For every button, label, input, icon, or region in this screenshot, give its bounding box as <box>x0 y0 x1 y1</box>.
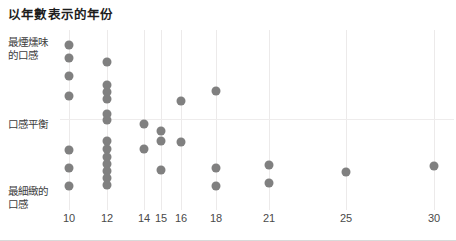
data-point <box>103 181 112 190</box>
y-axis-label-top: 最煙燻味的口感 <box>8 36 48 62</box>
data-point <box>65 146 74 155</box>
x-axis-label-10: 10 <box>63 212 75 224</box>
data-point <box>65 164 74 173</box>
y-axis-label-line1: 口感平衡 <box>8 118 48 131</box>
gridline-x-30 <box>434 30 435 210</box>
y-axis-label-middle: 口感平衡 <box>8 118 48 131</box>
data-point <box>212 87 221 96</box>
data-point <box>65 41 74 50</box>
data-point <box>157 137 166 146</box>
x-axis-label-14: 14 <box>138 212 150 224</box>
data-point <box>103 58 112 67</box>
scatter-chart: 以年數表示的年份 最煙燻味的口感口感平衡最細緻的口感 1012141516182… <box>0 0 456 241</box>
gridline-x-15 <box>161 30 162 210</box>
gridline-y-0 <box>60 119 454 120</box>
x-axis-label-25: 25 <box>340 212 352 224</box>
data-point <box>103 95 112 104</box>
x-axis-label-30: 30 <box>428 212 440 224</box>
data-point <box>177 138 186 147</box>
x-axis-label-15: 15 <box>155 212 167 224</box>
data-point <box>65 182 74 191</box>
data-point <box>212 182 221 191</box>
data-point <box>430 162 439 171</box>
data-point <box>212 164 221 173</box>
y-axis-label-line2: 口感 <box>8 198 48 211</box>
data-point <box>342 168 351 177</box>
data-point <box>103 116 112 125</box>
data-point <box>140 120 149 129</box>
data-point <box>140 145 149 154</box>
x-axis-label-18: 18 <box>210 212 222 224</box>
x-axis-label-16: 16 <box>175 212 187 224</box>
gridline-x-16 <box>181 30 182 210</box>
data-point <box>157 127 166 136</box>
data-point <box>157 166 166 175</box>
x-axis-label-21: 21 <box>263 212 275 224</box>
gridline-x-25 <box>346 30 347 210</box>
data-point <box>65 92 74 101</box>
y-axis-label-line1: 最細緻的 <box>8 185 48 198</box>
plot-area <box>0 0 456 241</box>
data-point <box>65 54 74 63</box>
y-axis-label-line1: 最煙燻味 <box>8 36 48 49</box>
data-point <box>65 72 74 81</box>
data-point <box>177 97 186 106</box>
data-point <box>265 161 274 170</box>
y-axis-label-line2: 的口感 <box>8 49 48 62</box>
x-axis-label-12: 12 <box>101 212 113 224</box>
data-point <box>265 179 274 188</box>
y-axis-label-bottom: 最細緻的口感 <box>8 185 48 211</box>
